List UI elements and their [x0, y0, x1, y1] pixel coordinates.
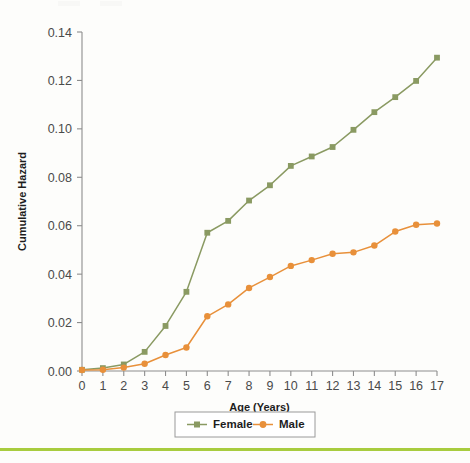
x-axis-tick-label: 1 [99, 379, 106, 393]
x-axis-tick-label: 10 [284, 379, 298, 393]
data-point-marker [309, 257, 315, 263]
y-axis-title: Cumulative Hazard [16, 152, 28, 251]
data-point-marker [100, 367, 106, 373]
data-point-marker [162, 352, 168, 358]
data-point-marker [204, 230, 210, 236]
data-point-marker [267, 182, 273, 188]
data-point-marker [184, 289, 190, 295]
x-axis-tick-label: 2 [120, 379, 127, 393]
legend-marker-female [194, 422, 200, 428]
data-point-marker [163, 323, 169, 329]
data-point-marker [434, 220, 440, 226]
data-point-marker [225, 301, 231, 307]
data-point-marker [141, 361, 147, 367]
data-point-marker [392, 228, 398, 234]
x-axis-tick-label: 0 [79, 379, 86, 393]
data-point-marker [329, 251, 335, 257]
series-female [79, 55, 440, 373]
cumulative-hazard-line-chart: 0.000.020.040.060.080.100.120.1401234567… [0, 0, 470, 440]
axes-layer [77, 32, 437, 376]
y-axis-tick-label: 0.12 [48, 74, 72, 88]
legend-label-male[interactable]: Male [279, 418, 305, 430]
data-point-marker [371, 242, 377, 248]
x-axis-title: Age (Years) [229, 401, 290, 413]
data-point-marker [330, 144, 336, 150]
data-point-marker [309, 154, 315, 160]
legend-marker-male [260, 421, 267, 428]
x-axis-tick-label: 5 [183, 379, 190, 393]
x-axis-tick-label: 12 [326, 379, 340, 393]
data-point-marker [79, 367, 85, 373]
x-axis-tick-label: 15 [388, 379, 402, 393]
y-axis-tick-label: 0.04 [48, 268, 72, 282]
x-axis-tick-label: 11 [305, 379, 318, 393]
data-point-marker [351, 127, 357, 133]
series-line-male [82, 224, 437, 371]
x-axis-tick-label: 17 [430, 379, 444, 393]
series-line-female [82, 58, 437, 370]
y-axis-tick-label: 0.08 [48, 171, 72, 185]
y-axis-tick-label: 0.10 [48, 122, 72, 136]
x-axis-tick-label: 16 [409, 379, 423, 393]
cumulative-hazard-chart-figure: 0.000.020.040.060.080.100.120.1401234567… [0, 0, 470, 463]
x-axis-tick-label: 7 [225, 379, 232, 393]
data-point-marker [413, 78, 419, 84]
y-axis-tick-label: 0.14 [48, 26, 72, 40]
bottom-accent-rule [0, 448, 470, 451]
data-point-marker [246, 285, 252, 291]
data-point-marker [392, 94, 398, 100]
x-axis-tick-label: 3 [141, 379, 148, 393]
x-axis-tick-label: 9 [266, 379, 273, 393]
chart-legend[interactable]: FemaleMale [175, 412, 315, 437]
legend-label-female[interactable]: Female [213, 418, 253, 430]
data-point-marker [371, 109, 377, 115]
data-point-marker [246, 198, 252, 204]
data-point-marker [142, 349, 148, 355]
data-point-marker [288, 263, 294, 269]
data-point-marker [434, 55, 440, 61]
data-point-marker [350, 249, 356, 255]
series-layer [79, 55, 440, 373]
data-point-marker [267, 274, 273, 280]
y-axis-tick-label: 0.02 [48, 316, 72, 330]
data-point-marker [413, 222, 419, 228]
x-axis-tick-label: 8 [246, 379, 253, 393]
data-point-marker [225, 218, 231, 224]
x-axis-tick-label: 4 [162, 379, 169, 393]
x-axis-tick-label: 6 [204, 379, 211, 393]
y-axis-tick-label: 0.00 [48, 365, 72, 379]
data-point-marker [121, 364, 127, 370]
data-point-marker [183, 344, 189, 350]
x-axis-tick-label: 14 [367, 379, 381, 393]
y-axis-tick-label: 0.06 [48, 219, 72, 233]
data-point-marker [204, 313, 210, 319]
clipped-caption-artifact [58, 1, 218, 6]
series-male [79, 220, 440, 373]
data-point-marker [288, 163, 294, 169]
x-axis-tick-label: 13 [347, 379, 361, 393]
